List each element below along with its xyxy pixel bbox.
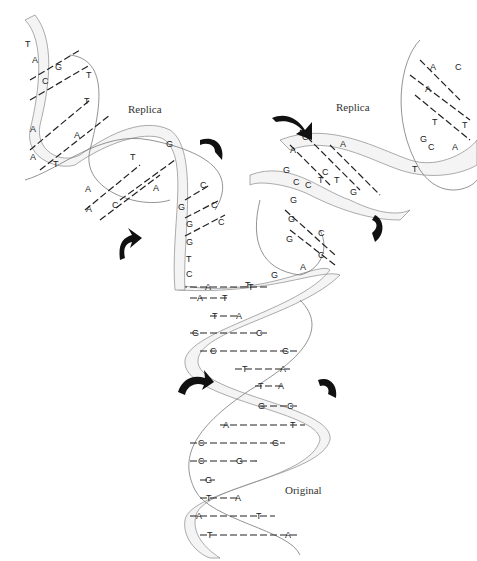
svg-text:T: T [258, 381, 264, 391]
svg-text:C: C [318, 228, 325, 238]
svg-text:G: G [290, 195, 297, 205]
svg-text:C: C [455, 62, 462, 72]
svg-text:G: G [288, 214, 295, 224]
svg-text:A: A [235, 493, 241, 503]
arrow-icon [200, 139, 223, 160]
svg-text:T: T [256, 511, 262, 521]
svg-text:A: A [74, 130, 80, 140]
svg-text:A: A [340, 139, 346, 149]
right-replica-helix: AC AT TA GC AT CG AT CT GC GC GC GC A G … [245, 40, 477, 290]
label-replica-left: Replica [128, 103, 162, 115]
svg-text:C: C [112, 200, 119, 210]
svg-text:G: G [271, 270, 278, 280]
svg-text:T: T [212, 311, 218, 321]
svg-text:C: C [428, 142, 435, 152]
left-replica-helix: T A CG AT AT TA AT AC AG GC GC GC T C [25, 15, 225, 290]
svg-text:C: C [322, 167, 329, 177]
svg-text:A: A [285, 530, 291, 540]
arrow-icon [372, 215, 383, 242]
svg-text:A: A [278, 381, 284, 391]
svg-text:A: A [290, 145, 296, 155]
svg-text:A: A [236, 311, 242, 321]
svg-text:G: G [272, 438, 279, 448]
svg-text:T: T [290, 420, 296, 430]
arrow-icon [318, 379, 336, 398]
svg-text:A: A [30, 152, 36, 162]
arrow-icon [120, 228, 143, 260]
svg-text:G: G [192, 328, 199, 338]
svg-text:T: T [207, 530, 213, 540]
svg-text:C: C [200, 180, 207, 190]
svg-text:A: A [85, 184, 91, 194]
svg-text:T: T [334, 175, 340, 185]
svg-text:G: G [236, 456, 243, 466]
svg-text:G: G [282, 346, 289, 356]
label-replica-right: Replica [336, 101, 370, 113]
original-helix: AT AT TA GC CG TA TA GC AT CG CG G TA AT… [178, 268, 340, 558]
svg-text:T: T [432, 117, 438, 127]
svg-text:A: A [430, 62, 436, 72]
svg-text:C: C [210, 346, 217, 356]
svg-text:A: A [300, 262, 306, 272]
dna-replication-diagram: AT AT TA GC CG TA TA GC AT CG CG G TA AT… [0, 0, 477, 561]
svg-text:T: T [412, 164, 418, 174]
svg-text:G: G [283, 165, 290, 175]
svg-text:T: T [84, 96, 90, 106]
label-original: Original [285, 484, 322, 496]
svg-text:C: C [318, 250, 325, 260]
svg-text:T: T [25, 39, 31, 49]
svg-text:T: T [242, 364, 248, 374]
svg-text:T: T [206, 493, 212, 503]
svg-text:G: G [186, 237, 193, 247]
svg-text:A: A [280, 364, 286, 374]
svg-text:T: T [130, 152, 136, 162]
svg-text:G: G [166, 139, 173, 149]
rotation-arrows [120, 116, 383, 398]
svg-text:C: C [256, 328, 263, 338]
svg-text:G: G [178, 202, 185, 212]
svg-text:T: T [53, 159, 59, 169]
svg-text:C: C [218, 217, 225, 227]
svg-text:A: A [32, 55, 38, 65]
svg-text:C: C [198, 456, 205, 466]
svg-text:G: G [420, 134, 427, 144]
svg-text:G: G [286, 234, 293, 244]
svg-text:T: T [462, 120, 468, 130]
svg-text:A: A [196, 511, 202, 521]
svg-text:A: A [153, 183, 159, 193]
svg-text:A: A [205, 282, 211, 292]
svg-text:G: G [350, 187, 357, 197]
svg-text:A: A [452, 142, 458, 152]
svg-text:G: G [55, 62, 62, 72]
svg-text:A: A [197, 293, 203, 303]
left-replica-base-pairs [30, 50, 225, 236]
svg-text:G: G [258, 401, 265, 411]
svg-text:G: G [205, 475, 212, 485]
svg-text:C: C [42, 76, 49, 86]
svg-text:A: A [30, 124, 36, 134]
svg-text:C: C [211, 200, 218, 210]
svg-text:C: C [293, 177, 300, 187]
svg-text:A: A [86, 204, 92, 214]
svg-text:C: C [186, 269, 193, 279]
svg-text:T: T [245, 280, 251, 290]
svg-text:T: T [222, 293, 228, 303]
svg-text:T: T [186, 254, 192, 264]
svg-text:C: C [305, 180, 312, 190]
svg-text:A: A [425, 84, 431, 94]
svg-text:T: T [86, 70, 92, 80]
svg-text:C: C [198, 438, 205, 448]
svg-text:C: C [287, 401, 294, 411]
svg-text:A: A [223, 420, 229, 430]
svg-text:G: G [186, 219, 193, 229]
